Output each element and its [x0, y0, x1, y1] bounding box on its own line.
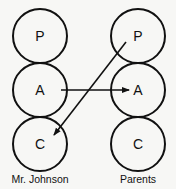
right-ego-stack: P A C Parents: [111, 9, 165, 185]
left-child-letter: C: [35, 136, 45, 152]
left-adult-letter: A: [35, 82, 45, 98]
right-parent-letter: P: [133, 28, 142, 44]
left-ego-stack: P A C Mr. Johnson: [11, 9, 68, 185]
right-caption: Parents: [120, 173, 156, 185]
parent-to-child-arrow: [54, 42, 126, 135]
left-parent-letter: P: [35, 28, 44, 44]
right-adult-letter: A: [133, 82, 143, 98]
left-caption: Mr. Johnson: [11, 173, 68, 185]
right-child-letter: C: [133, 136, 143, 152]
ego-state-diagram: P A C Mr. Johnson P A C Parents: [0, 0, 176, 189]
